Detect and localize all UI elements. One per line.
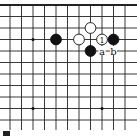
black-stone [51,34,62,45]
marker-a: a [99,46,105,57]
star-point [100,107,103,110]
board-grid [0,5,137,130]
star-point [31,38,34,41]
black-stone [108,34,119,45]
star-point [31,107,34,110]
white-stone [85,23,96,34]
move-number: 1 [99,36,104,45]
diagram-caption-mark [3,131,10,136]
black-stone [85,46,96,57]
white-stone: 1 [97,34,108,45]
marker-b: b [110,46,116,57]
go-board-diagram: 1 ab [0,0,137,136]
white-stone [74,34,85,45]
